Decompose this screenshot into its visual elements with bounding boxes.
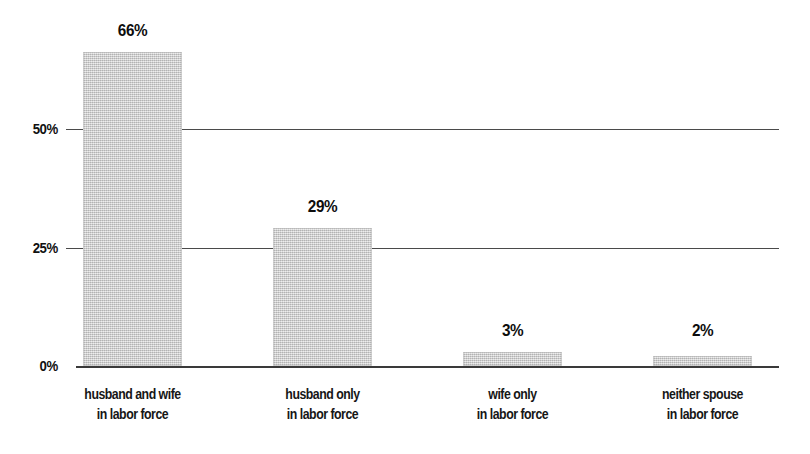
category-label-line-2: in labor force [62,405,204,425]
category-label-husband-only: husband only in labor force [242,385,403,425]
tick-stub-50 [66,129,84,130]
category-label-line-1: husband only [252,385,394,405]
y-tick-label-25: 25% [7,239,58,256]
bar-value-husband-and-wife: 66% [88,21,177,41]
category-label-line-1: husband and wife [62,385,204,405]
bar-neither-spouse[interactable] [653,356,752,366]
category-label-husband-and-wife: husband and wife in labor force [52,385,213,425]
category-label-line-1: wife only [442,385,584,405]
bar-husband-only[interactable] [273,228,372,366]
bar-value-husband-only: 29% [278,197,367,217]
axis-baseline-0 [76,366,779,368]
bar-value-wife-only: 3% [468,321,557,341]
tick-stub-25 [66,248,84,249]
bar-value-neither-spouse: 2% [658,321,747,341]
category-label-wife-only: wife only in labor force [432,385,593,425]
category-label-neither-spouse: neither spouse in labor force [622,385,783,425]
category-label-line-2: in labor force [442,405,584,425]
y-tick-label-50: 50% [7,120,58,137]
category-label-line-2: in labor force [252,405,394,425]
bar-husband-and-wife[interactable] [83,52,182,366]
category-label-line-1: neither spouse [632,385,774,405]
y-tick-label-0: 0% [7,357,58,374]
gridline-50 [93,129,779,130]
plot-area: 50% 25% 0% 66% husband and wife in labor… [0,0,810,454]
category-label-line-2: in labor force [632,405,774,425]
gridline-25 [93,248,779,249]
bar-chart: 50% 25% 0% 66% husband and wife in labor… [0,0,810,454]
bar-wife-only[interactable] [463,352,562,366]
